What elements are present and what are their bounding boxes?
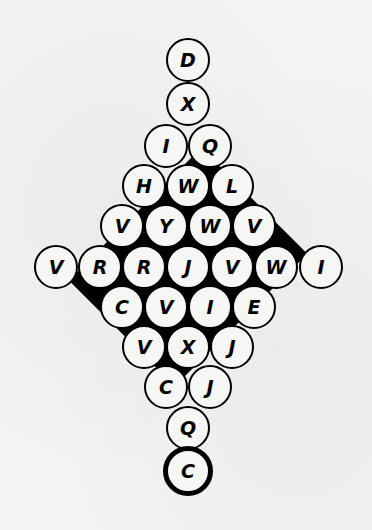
letter-circle: V: [34, 245, 78, 289]
letter: V: [115, 215, 130, 237]
letter-circle: I: [188, 285, 232, 329]
letter-circle: I: [299, 245, 343, 289]
letter-circle: Y: [144, 204, 188, 248]
letter: X: [181, 93, 196, 115]
letter-circle: V: [144, 285, 188, 329]
letter-circle: R: [78, 245, 122, 289]
letter: W: [178, 175, 199, 197]
letter: J: [206, 376, 213, 398]
letter: I: [206, 296, 213, 318]
letter: Y: [159, 215, 173, 237]
letter: V: [225, 256, 240, 278]
letter: E: [248, 296, 261, 318]
letter: I: [162, 135, 169, 157]
letter: V: [159, 296, 174, 318]
letter-circle: E: [232, 285, 276, 329]
letter-circle: C: [144, 365, 188, 409]
letter-circle: J: [188, 365, 232, 409]
letter-circle: H: [122, 164, 166, 208]
letter: R: [93, 256, 108, 278]
letter-circle: J: [210, 325, 254, 369]
letter-circle: V: [210, 245, 254, 289]
letter-circle: X: [166, 325, 210, 369]
letter: C: [159, 376, 173, 398]
letter: L: [226, 175, 238, 197]
letter-circle: V: [232, 204, 276, 248]
letter: D: [180, 49, 196, 71]
letter-circle: R: [122, 245, 166, 289]
letter: J: [228, 336, 235, 358]
letter: W: [266, 256, 287, 278]
letter: Q: [180, 417, 196, 439]
letter-circle: V: [100, 204, 144, 248]
letter: Q: [202, 135, 218, 157]
letter: V: [49, 256, 64, 278]
letter-circle: X: [166, 82, 210, 126]
letter: R: [137, 256, 152, 278]
letter-circle: C: [100, 285, 144, 329]
letter-circle: V: [122, 325, 166, 369]
letter-circle: W: [188, 204, 232, 248]
letter-circle: W: [254, 245, 298, 289]
letter-circle-final: C: [163, 446, 213, 496]
letter-circle: I: [144, 124, 188, 168]
letter: X: [181, 336, 196, 358]
letter-circle: Q: [188, 124, 232, 168]
letter-circle: Q: [166, 406, 210, 450]
letter: I: [317, 256, 324, 278]
letter: C: [115, 296, 129, 318]
letter: V: [247, 215, 262, 237]
letter-circle: W: [166, 164, 210, 208]
letter-circle: D: [166, 38, 210, 82]
letter-circle: J: [166, 245, 210, 289]
letter: W: [200, 215, 221, 237]
letter: H: [136, 175, 152, 197]
letter: V: [137, 336, 152, 358]
letter: C: [181, 460, 195, 482]
letter-circle: L: [210, 164, 254, 208]
letter: J: [184, 256, 191, 278]
